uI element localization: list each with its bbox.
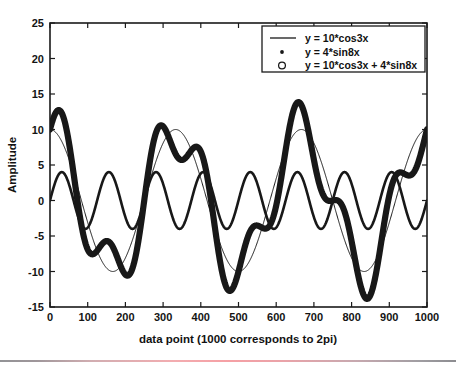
y-tick-label: -10 — [28, 266, 44, 278]
x-tick-label: 900 — [380, 311, 398, 323]
x-tick-label: 800 — [342, 311, 360, 323]
x-axis-title: data point (1000 corresponds to 2pi) — [139, 333, 337, 345]
x-tick-label: 100 — [79, 311, 97, 323]
y-axis-title: Amplitude — [6, 137, 18, 193]
x-tick-label: 600 — [267, 311, 285, 323]
y-tick-label: 10 — [32, 124, 44, 136]
chart-plot: 01002003004005006007008009001000 -15-10-… — [0, 0, 456, 368]
y-tick-label: 20 — [32, 53, 44, 65]
x-tick-label: 700 — [305, 311, 323, 323]
x-tick-label: 300 — [154, 311, 172, 323]
x-tick-label: 1000 — [415, 311, 439, 323]
legend: y = 10*cos3x y = 4*sin8x y = 10*cos3x + … — [262, 26, 425, 72]
legend-dot-marker-icon — [280, 50, 284, 54]
legend-label-cos: y = 10*cos3x — [305, 32, 369, 44]
x-tick-label: 400 — [192, 311, 210, 323]
y-tick-label: 15 — [32, 88, 44, 100]
x-tick-label: 0 — [47, 311, 53, 323]
legend-label-sum: y = 10*cos3x + 4*sin8x — [305, 59, 417, 71]
y-tick-label: 5 — [38, 159, 44, 171]
x-tick-label: 200 — [116, 311, 134, 323]
y-tick-label: -5 — [34, 230, 44, 242]
figure-container: 01002003004005006007008009001000 -15-10-… — [0, 0, 456, 368]
y-tick-label: 0 — [38, 195, 44, 207]
scan-artifact-line — [0, 360, 456, 362]
x-tick-label: 500 — [229, 311, 247, 323]
y-tick-label: 25 — [32, 17, 44, 29]
legend-label-sin: y = 4*sin8x — [305, 46, 360, 58]
y-tick-label: -15 — [28, 301, 44, 313]
